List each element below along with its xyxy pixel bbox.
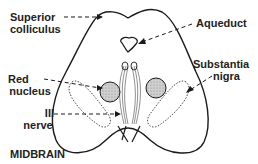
label-superior-colliculus-line2: colliculus xyxy=(10,23,61,35)
label-red-nucleus-line1: Red xyxy=(8,73,52,85)
third-nerve-fibers xyxy=(120,62,141,124)
diagram-title: MIDBRAIN xyxy=(10,148,65,160)
red-nucleus-right xyxy=(146,78,166,98)
label-superior-colliculus-line1: Superior xyxy=(10,11,61,23)
label-red-nucleus-line2: nucleus xyxy=(8,85,52,97)
leader-aqueduct xyxy=(142,24,192,42)
aqueduct-shape xyxy=(121,37,138,52)
label-superior-colliculus: Superior colliculus xyxy=(10,11,61,35)
label-substantia-nigra-line2: nigra xyxy=(193,70,249,82)
label-third-nerve-line2: nerve xyxy=(22,119,54,131)
label-aqueduct-text: Aqueduct xyxy=(196,17,247,29)
red-nucleus-left xyxy=(100,82,120,102)
label-aqueduct: Aqueduct xyxy=(196,17,247,29)
label-third-nerve: III nerve xyxy=(22,107,54,131)
label-third-nerve-line1: III xyxy=(22,107,54,119)
diagram-title-text: MIDBRAIN xyxy=(10,148,65,160)
label-red-nucleus: Red nucleus xyxy=(8,73,52,97)
leader-red-nucleus xyxy=(44,79,100,88)
label-substantia-nigra: Substantia nigra xyxy=(193,58,249,82)
label-substantia-nigra-line1: Substantia xyxy=(193,58,249,70)
